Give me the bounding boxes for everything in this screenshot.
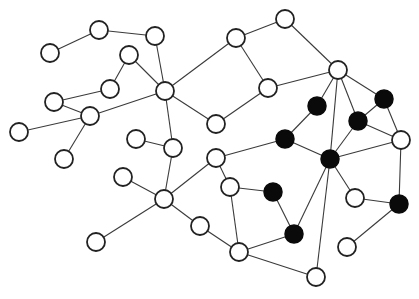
edge-L-F: [90, 91, 165, 116]
edge-b5-I: [330, 70, 338, 159]
white-node-I: [329, 61, 347, 79]
white-node-V: [191, 217, 209, 235]
white-node-B: [146, 27, 164, 45]
white-node-L: [81, 107, 99, 125]
edge-J-I: [268, 70, 338, 88]
black-node-b1: [308, 97, 326, 115]
edge-AA-b8: [347, 204, 399, 247]
white-node-A: [90, 21, 108, 39]
black-node-b3: [349, 112, 367, 130]
white-node-AA: [338, 238, 356, 256]
white-node-S: [114, 168, 132, 186]
white-node-N: [207, 115, 225, 133]
edge-L-M: [19, 116, 90, 132]
edge-H-I: [285, 19, 338, 70]
black-node-b5: [321, 150, 339, 168]
white-node-O: [55, 150, 73, 168]
white-node-F: [156, 82, 174, 100]
edge-b7-b5: [294, 159, 330, 234]
white-node-H: [276, 10, 294, 28]
white-node-M: [10, 123, 28, 141]
white-node-W: [87, 233, 105, 251]
white-node-AB: [392, 131, 410, 149]
white-node-P: [127, 130, 145, 148]
black-node-b8: [390, 195, 408, 213]
white-node-J: [259, 79, 277, 97]
edge-F-G: [165, 38, 236, 91]
white-node-K: [45, 93, 63, 111]
white-node-Y: [307, 268, 325, 286]
edge-b5-Y: [316, 159, 330, 277]
black-node-b2: [375, 90, 393, 108]
edge-T-W: [96, 199, 164, 242]
white-node-R: [207, 149, 225, 167]
edge-X-Y: [239, 252, 316, 277]
black-node-b7: [285, 225, 303, 243]
white-node-G: [227, 29, 245, 47]
graph-nodes: [10, 10, 410, 286]
white-node-U: [221, 178, 239, 196]
white-node-E: [101, 80, 119, 98]
white-node-C: [41, 44, 59, 62]
black-node-b6: [264, 183, 282, 201]
network-graph: [0, 0, 419, 299]
white-node-T: [155, 190, 173, 208]
edge-R-b4: [216, 139, 285, 158]
white-node-D: [120, 46, 138, 64]
edge-b5-AB: [330, 140, 401, 159]
white-node-X: [230, 243, 248, 261]
edge-T-R: [164, 158, 216, 199]
white-node-Q: [164, 139, 182, 157]
white-node-Z: [346, 189, 364, 207]
black-node-b4: [276, 130, 294, 148]
